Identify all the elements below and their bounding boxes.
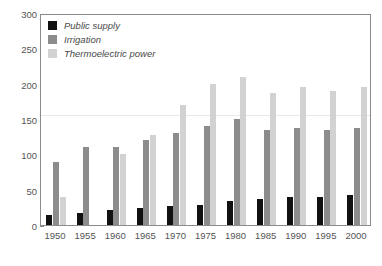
bar-public-supply-1960 — [107, 210, 113, 225]
bar-thermoelectric-power-1970 — [180, 105, 186, 225]
bar-irrigation-1950 — [53, 162, 59, 225]
y-axis-tick-label: 100 — [3, 151, 37, 161]
bar-thermoelectric-power-1950 — [60, 197, 66, 225]
bar-irrigation-1970 — [173, 133, 179, 225]
legend-swatch-icon — [48, 49, 57, 58]
y-axis-tick-label: 300 — [3, 10, 37, 20]
x-axis-tick-label: 1990 — [281, 231, 311, 241]
x-axis-tick-label: 1985 — [251, 231, 281, 241]
bar-thermoelectric-power-1985 — [270, 93, 276, 225]
bar-public-supply-1955 — [77, 213, 83, 225]
bar-irrigation-1975 — [204, 126, 210, 225]
legend-item: Thermoelectric power — [48, 47, 155, 60]
legend-item: Irrigation — [48, 33, 155, 46]
x-axis-tick-label: 1980 — [221, 231, 251, 241]
bar-public-supply-1965 — [137, 208, 143, 225]
legend-item-label: Thermoelectric power — [64, 49, 155, 59]
legend: Public supplyIrrigationThermoelectric po… — [48, 19, 155, 61]
water-use-bar-chart: 050100150200250300 195019551960196519701… — [0, 0, 382, 266]
x-axis-tick-label: 1995 — [311, 231, 341, 241]
y-axis-tick-label: 0 — [3, 222, 37, 232]
bar-public-supply-1990 — [287, 197, 293, 225]
y-axis-tick-label: 200 — [3, 81, 37, 91]
x-axis-tick-label: 1950 — [40, 231, 70, 241]
bar-thermoelectric-power-1990 — [300, 87, 306, 225]
bar-irrigation-1985 — [264, 130, 270, 225]
y-axis-tick-label: 250 — [3, 45, 37, 55]
bar-public-supply-2000 — [347, 195, 353, 225]
legend-swatch-icon — [48, 35, 57, 44]
bar-irrigation-2000 — [354, 128, 360, 225]
bar-irrigation-1955 — [83, 147, 89, 225]
bar-irrigation-1980 — [234, 119, 240, 225]
y-axis-tick-label: 50 — [3, 187, 37, 197]
y-axis-tick-mark — [40, 226, 44, 227]
bar-thermoelectric-power-1975 — [210, 84, 216, 225]
x-axis-tick-label: 1960 — [100, 231, 130, 241]
legend-item-label: Irrigation — [64, 35, 101, 45]
x-axis-tick-label: 1955 — [70, 231, 100, 241]
bar-thermoelectric-power-1960 — [120, 154, 126, 225]
bar-public-supply-1975 — [197, 205, 203, 225]
bar-thermoelectric-power-1995 — [330, 91, 336, 225]
bar-thermoelectric-power-1980 — [240, 77, 246, 225]
bar-thermoelectric-power-2000 — [361, 87, 367, 225]
bar-public-supply-1950 — [46, 215, 52, 225]
y-axis-tick-label: 150 — [3, 116, 37, 126]
x-axis-tick-label: 2000 — [341, 231, 371, 241]
bar-irrigation-1995 — [324, 130, 330, 225]
bar-public-supply-1995 — [317, 197, 323, 225]
bar-irrigation-1990 — [294, 128, 300, 225]
bar-irrigation-1960 — [113, 147, 119, 225]
bar-public-supply-1985 — [257, 199, 263, 225]
x-axis-tick-label: 1975 — [191, 231, 221, 241]
bar-public-supply-1970 — [167, 206, 173, 225]
bar-thermoelectric-power-1965 — [150, 135, 156, 225]
bar-irrigation-1965 — [143, 140, 149, 225]
legend-item-label: Public supply — [64, 21, 120, 31]
reference-gridline — [41, 115, 370, 116]
x-axis-tick-label: 1965 — [130, 231, 160, 241]
bar-public-supply-1980 — [227, 201, 233, 225]
legend-item: Public supply — [48, 19, 155, 32]
legend-swatch-icon — [48, 21, 57, 30]
x-axis-tick-label: 1970 — [160, 231, 190, 241]
